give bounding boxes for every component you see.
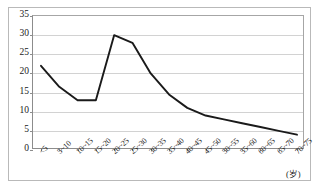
plot-area (32, 15, 304, 149)
y-tick-label: 0 (3, 144, 29, 154)
x-axis-tick-labels: <55~1010~1515~2020~2525~3030~3535~4040~4… (32, 150, 304, 188)
y-tick-label: 20 (3, 67, 29, 77)
x-axis-unit-label: (岁) (286, 170, 301, 179)
y-tick-label: 35 (3, 10, 29, 20)
y-tick-label: 15 (3, 87, 29, 97)
chart-figure: 05101520253035 <55~1010~1515~2020~2525~3… (0, 0, 321, 190)
y-tick-label: 25 (3, 48, 29, 58)
y-tick-label: 30 (3, 29, 29, 39)
y-axis-tick-labels: 05101520253035 (0, 15, 29, 149)
y-tick-label: 10 (3, 106, 29, 116)
data-series-line (33, 16, 305, 150)
y-tick-label: 5 (3, 125, 29, 135)
